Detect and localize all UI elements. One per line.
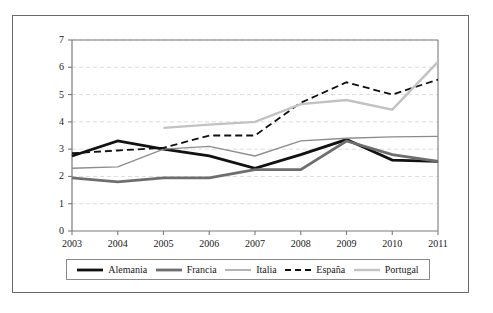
y-axis-tick-label: 7 xyxy=(50,35,64,45)
y-axis-tick-label: 5 xyxy=(50,90,64,100)
x-axis-tick-label: 2006 xyxy=(189,239,229,249)
x-axis-tick-label: 2007 xyxy=(235,239,275,249)
x-axis-tick-label: 2003 xyxy=(52,239,92,249)
x-axis-tick-label: 2009 xyxy=(327,239,367,249)
y-axis-tick-label: 0 xyxy=(50,226,64,236)
line-swatch-dashed-black xyxy=(285,265,311,275)
legend-label: Alemania xyxy=(108,265,147,275)
legend-label: Francia xyxy=(187,265,217,275)
chart-legend: AlemaniaFranciaItaliaEspañaPortugal xyxy=(66,259,430,280)
line-swatch-solid-lightgray xyxy=(354,265,380,275)
x-axis-tick-label: 2011 xyxy=(418,239,458,249)
legend-label: Portugal xyxy=(385,265,419,275)
y-axis-tick-label: 1 xyxy=(50,199,64,209)
line-swatch-thin-gray xyxy=(225,265,251,275)
y-axis-tick-label: 4 xyxy=(50,117,64,127)
y-axis-tick-label: 2 xyxy=(50,171,64,181)
x-axis-tick-label: 2010 xyxy=(372,239,412,249)
x-axis-tick-label: 2008 xyxy=(281,239,321,249)
line-swatch-solid-black xyxy=(77,265,103,275)
legend-item-italia[interactable]: Italia xyxy=(225,265,277,275)
legend-item-francia[interactable]: Francia xyxy=(156,265,217,275)
legend-label: Italia xyxy=(256,265,277,275)
legend-label: España xyxy=(316,265,345,275)
x-axis-tick-label: 2005 xyxy=(144,239,184,249)
series-line-francia xyxy=(72,141,438,182)
x-axis-tick-label: 2004 xyxy=(98,239,138,249)
y-axis-tick-label: 3 xyxy=(50,144,64,154)
y-axis-tick-label: 6 xyxy=(50,62,64,72)
legend-item-espaa[interactable]: España xyxy=(285,265,345,275)
legend-item-alemania[interactable]: Alemania xyxy=(77,265,147,275)
line-swatch-solid-darkgray xyxy=(156,265,182,275)
legend-item-portugal[interactable]: Portugal xyxy=(354,265,419,275)
figure-container: 76543210 2003200420052006200720082009201… xyxy=(0,0,493,313)
